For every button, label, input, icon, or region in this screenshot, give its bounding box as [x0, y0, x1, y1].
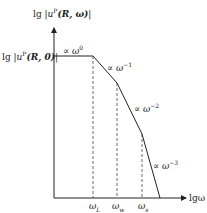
spectrum-diagram: [0, 0, 207, 213]
slope-label-1: ∝ ω−1: [107, 62, 132, 73]
y-reference-label: lg |uP(R, 0)|: [2, 51, 58, 62]
x-axis-label: lgω: [189, 194, 205, 203]
slope-label-3: ∝ ω−3: [153, 160, 178, 171]
tick-omega-s: ωs: [138, 202, 148, 213]
y-axis-label: lg |uP(R, ω)|: [33, 8, 91, 19]
tick-omega-w: ωw: [112, 202, 124, 213]
slope-label-0: ∝ ω0: [63, 45, 83, 56]
slope-label-2: ∝ ω−2: [134, 103, 159, 114]
spectrum-curve: [54, 56, 160, 198]
tick-omega-l: ωL: [89, 202, 100, 213]
